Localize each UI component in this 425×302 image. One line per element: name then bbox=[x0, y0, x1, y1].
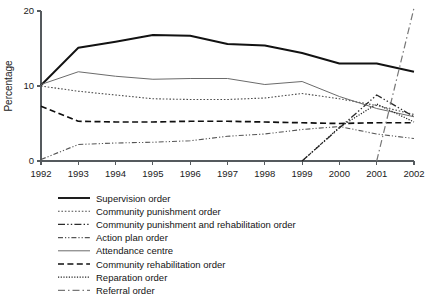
legend-label-3: Action plan order bbox=[96, 232, 168, 243]
x-tick-label: 1993 bbox=[68, 168, 89, 179]
legend: Supervision orderCommunity punishment or… bbox=[58, 193, 296, 296]
legend-label-2: Community punishment and rehabilitation … bbox=[96, 219, 296, 230]
legend-label-0: Supervision order bbox=[96, 193, 170, 204]
y-tick-label: 20 bbox=[23, 5, 34, 16]
x-tick-label: 1994 bbox=[105, 168, 126, 179]
legend-label-7: Referral order bbox=[96, 285, 155, 296]
legend-item-0[interactable]: Supervision order bbox=[58, 193, 170, 204]
series-line-5 bbox=[41, 106, 414, 123]
legend-item-4[interactable]: Attendance centre bbox=[58, 245, 173, 256]
legend-item-7[interactable]: Referral order bbox=[58, 285, 155, 296]
y-axis-title: Percentage bbox=[3, 60, 14, 112]
x-tick-label: 2001 bbox=[366, 168, 387, 179]
legend-item-2[interactable]: Community punishment and rehabilitation … bbox=[58, 219, 296, 230]
legend-item-6[interactable]: Reparation order bbox=[58, 272, 167, 283]
x-tick-label: 1997 bbox=[217, 168, 238, 179]
x-tick-label: 1999 bbox=[292, 168, 313, 179]
series-line-4 bbox=[41, 72, 414, 117]
x-tick-label: 1995 bbox=[142, 168, 163, 179]
series-line-3 bbox=[41, 127, 414, 160]
plot-area: 0102019921993199419951996199719981999200… bbox=[3, 5, 425, 178]
series-line-0 bbox=[41, 35, 414, 85]
y-tick-label: 10 bbox=[23, 80, 34, 91]
legend-label-4: Attendance centre bbox=[96, 245, 173, 256]
x-tick-label: 2002 bbox=[403, 168, 424, 179]
legend-label-1: Community punishment order bbox=[96, 206, 221, 217]
x-tick-label: 2000 bbox=[329, 168, 350, 179]
line-chart: 0102019921993199419951996199719981999200… bbox=[0, 0, 425, 302]
legend-item-3[interactable]: Action plan order bbox=[58, 232, 168, 243]
legend-label-5: Community rehabilitation order bbox=[96, 259, 225, 270]
legend-item-1[interactable]: Community punishment order bbox=[58, 206, 221, 217]
x-tick-label: 1996 bbox=[180, 168, 201, 179]
x-tick-label: 1998 bbox=[254, 168, 275, 179]
legend-label-6: Reparation order bbox=[96, 272, 167, 283]
legend-item-5[interactable]: Community rehabilitation order bbox=[58, 259, 225, 270]
x-tick-label: 1992 bbox=[30, 168, 51, 179]
series-line-1 bbox=[41, 86, 414, 115]
y-tick-label: 0 bbox=[29, 155, 34, 166]
